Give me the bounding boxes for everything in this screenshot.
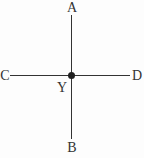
intersection-point-dot — [68, 72, 75, 79]
center-point-label-y: Y — [55, 80, 69, 95]
endpoint-label-b: B — [65, 140, 79, 155]
endpoint-label-a: A — [65, 0, 79, 15]
cross-diagram: A B C D Y — [0, 0, 144, 158]
endpoint-label-d: D — [130, 68, 144, 83]
